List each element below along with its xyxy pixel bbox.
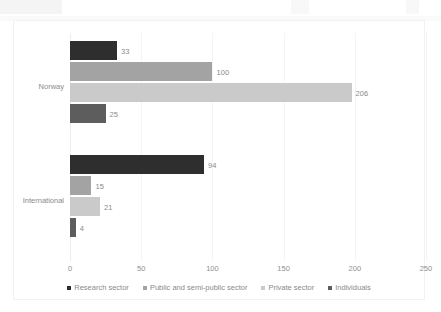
x-axis: 0 50 100 150 200 250 — [70, 264, 426, 278]
legend-item-private-sector[interactable]: Private sector — [261, 283, 314, 292]
x-tick-0: 0 — [68, 264, 72, 273]
bar-value-international-public: 15 — [95, 181, 104, 190]
legend-label-public-sector: Public and semi-public sector — [150, 283, 248, 292]
bar-value-norway-individuals: 25 — [110, 109, 119, 118]
gridline-250 — [426, 33, 427, 261]
bar-value-norway-research: 33 — [121, 46, 130, 55]
legend-item-individuals[interactable]: Individuals — [328, 283, 370, 292]
legend-item-public-sector[interactable]: Public and semi-public sector — [143, 283, 248, 292]
legend-label-research-sector: Research sector — [74, 283, 129, 292]
category-label-norway: Norway — [39, 82, 64, 91]
bar-norway-individuals[interactable] — [70, 104, 106, 123]
x-tick-100: 100 — [206, 264, 219, 273]
bar-norway-private[interactable] — [70, 83, 352, 102]
legend-swatch-icon — [328, 286, 332, 290]
x-tick-200: 200 — [349, 264, 362, 273]
legend-item-research-sector[interactable]: Research sector — [67, 283, 129, 292]
bar-value-international-research: 94 — [208, 160, 217, 169]
bar-value-norway-public: 100 — [216, 67, 229, 76]
legend-label-individuals: Individuals — [335, 283, 370, 292]
x-tick-50: 50 — [137, 264, 145, 273]
bar-value-international-private: 21 — [104, 202, 113, 211]
scan-noise-top — [0, 0, 441, 14]
bar-value-norway-private: 206 — [356, 88, 369, 97]
bar-group-norway: Norway 33 100 206 25 — [70, 41, 426, 141]
bar-international-research[interactable] — [70, 155, 204, 174]
bar-international-public[interactable] — [70, 176, 91, 195]
chart-legend: Research sector Public and semi-public s… — [14, 283, 424, 292]
x-tick-150: 150 — [277, 264, 290, 273]
legend-swatch-icon — [261, 286, 265, 290]
bar-international-private[interactable] — [70, 197, 100, 216]
legend-label-private-sector: Private sector — [268, 283, 314, 292]
legend-swatch-icon — [143, 286, 147, 290]
bar-value-international-individuals: 4 — [80, 223, 84, 232]
plot-area: Norway 33 100 206 25 International — [70, 33, 426, 261]
bar-norway-research[interactable] — [70, 41, 117, 60]
bar-norway-public[interactable] — [70, 62, 212, 81]
bar-chart: Norway 33 100 206 25 International — [13, 20, 425, 300]
legend-swatch-icon — [67, 286, 71, 290]
bar-international-individuals[interactable] — [70, 218, 76, 237]
bar-group-international: International 94 15 21 4 — [70, 155, 426, 255]
x-tick-250: 250 — [420, 264, 433, 273]
category-label-international: International — [23, 196, 64, 205]
